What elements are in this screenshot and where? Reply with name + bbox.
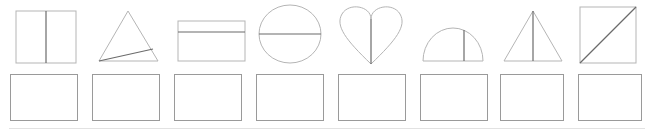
answer-box-1[interactable]	[10, 74, 78, 121]
oblique-line	[99, 49, 153, 61]
answer-box-3[interactable]	[174, 74, 242, 121]
answer-box-2[interactable]	[92, 74, 160, 121]
answer-box-5[interactable]	[338, 74, 406, 121]
answer-box-7[interactable]	[500, 74, 564, 121]
symmetry-worksheet	[0, 0, 653, 134]
shape-cell-8-square-diagonal[interactable]	[572, 0, 653, 68]
shape-cell-7-isosceles-triangle[interactable]	[494, 0, 576, 68]
triangle-outline	[99, 11, 158, 61]
answer-box-8[interactable]	[578, 74, 642, 121]
answer-box-6[interactable]	[420, 74, 488, 121]
shape-cell-5-heart[interactable]	[330, 0, 412, 68]
shape-cell-1-square[interactable]	[8, 0, 90, 68]
answer-box-4[interactable]	[256, 74, 324, 121]
footer-divider	[9, 128, 645, 129]
rectangle-outline	[178, 21, 245, 61]
shape-cell-3-rectangle[interactable]	[172, 0, 254, 68]
shape-cell-2-triangle[interactable]	[90, 0, 172, 68]
semicircle-outline	[423, 28, 483, 61]
shape-cell-4-circle[interactable]	[250, 0, 332, 68]
diagonal-line	[580, 7, 636, 63]
shape-cell-6-semicircle[interactable]	[412, 0, 494, 68]
